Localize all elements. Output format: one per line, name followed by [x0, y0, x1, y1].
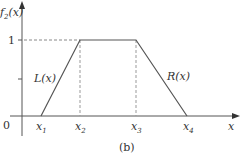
- x-axis-arrow-icon: [232, 113, 240, 119]
- x-tick-label-4: x4: [183, 120, 194, 135]
- right-curve-label: R(x): [166, 70, 190, 83]
- x-tick-label-1: x1: [36, 120, 47, 135]
- left-curve-label: L(x): [33, 72, 56, 85]
- x-tick-label-3: x3: [131, 120, 142, 135]
- membership-function-diagram: f2(x) 1 0 L(x) R(x) x1 x2 x3 x4 x (b): [0, 0, 241, 156]
- level-1-label: 1: [8, 34, 15, 47]
- x-axis-label: x: [228, 120, 235, 133]
- trapezoid-curve: [41, 40, 187, 116]
- x-tick-label-2: x2: [75, 120, 86, 135]
- origin-label: 0: [3, 119, 10, 132]
- figure-caption: (b): [119, 141, 135, 154]
- y-axis-label: f2(x): [0, 6, 23, 21]
